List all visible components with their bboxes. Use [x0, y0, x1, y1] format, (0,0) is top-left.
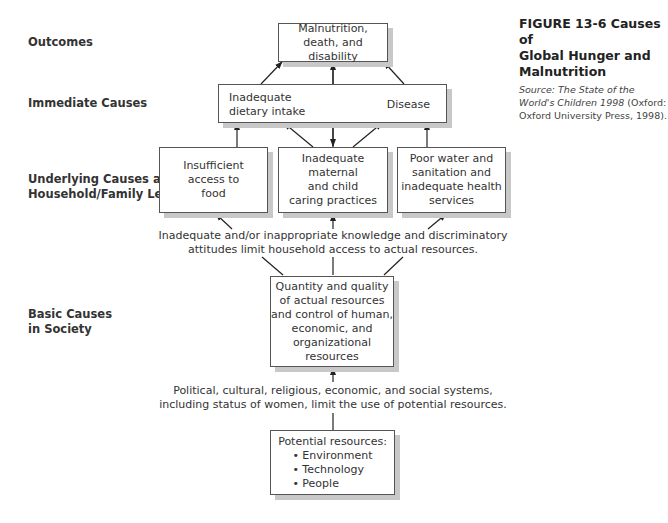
level-label-immediate: Immediate Causes	[28, 96, 147, 111]
water-sanitation-box: Poor water and sanitation and inadequate…	[397, 147, 506, 213]
basic-line3: and control of human,	[271, 308, 393, 322]
potential-item-technology: • Technology	[292, 463, 372, 477]
food-access-line1: Insufficient	[183, 159, 244, 173]
figure-source: Source: The State of the World's Childre…	[519, 83, 668, 122]
potential-resources-box: Potential resources: • Environment • Tec…	[270, 430, 395, 495]
dietary-intake-line2: dietary intake	[229, 105, 305, 119]
figure-caption: FIGURE 13-6 Causes of Global Hunger and …	[519, 16, 668, 122]
systems-line2: including status of women, limit the use…	[140, 398, 526, 412]
figure-source-italic: Source: The State of the World's Childre…	[519, 84, 635, 108]
food-access-line2: access to	[188, 173, 240, 187]
basic-line1: Quantity and quality	[276, 280, 389, 294]
basic-line6: resources	[305, 350, 358, 364]
caring-line3: caring practices	[289, 194, 377, 208]
dietary-intake-label: Inadequate dietary intake	[229, 91, 305, 119]
knowledge-caption: Inadequate and/or inappropriate knowledg…	[150, 229, 516, 257]
level-label-basic-line1: Basic Causes	[28, 307, 112, 322]
basic-causes-box: Quantity and quality of actual resources…	[270, 276, 394, 367]
figure-title: FIGURE 13-6 Causes of Global Hunger and …	[519, 16, 668, 80]
caring-line1: Inadequate maternal	[279, 152, 387, 180]
level-label-basic-line2: in Society	[28, 322, 112, 337]
systems-line1: Political, cultural, religious, economic…	[140, 384, 526, 398]
water-line1: Poor water and	[410, 152, 493, 166]
water-line4: services	[429, 194, 474, 208]
food-access-line3: food	[201, 187, 225, 201]
disease-label: Disease	[387, 98, 430, 112]
figure-title-line2: Global Hunger and	[519, 48, 668, 64]
basic-line2: of actual resources	[280, 294, 385, 308]
potential-list: • Environment • Technology • People	[292, 449, 372, 491]
water-line2: sanitation and	[412, 166, 491, 180]
caring-line2: and child	[308, 180, 358, 194]
dietary-intake-line1: Inadequate	[229, 91, 305, 105]
outcome-line2: death, and disability	[279, 36, 387, 64]
figure-title-line3: Malnutrition	[519, 64, 668, 80]
food-access-box: Insufficient access to food	[159, 147, 268, 213]
basic-line5: organizational	[293, 336, 371, 350]
knowledge-line2: attitudes limit household access to actu…	[150, 243, 516, 257]
water-line3: inadequate health	[401, 180, 502, 194]
knowledge-line1: Inadequate and/or inappropriate knowledg…	[150, 229, 516, 243]
level-label-outcomes: Outcomes	[28, 35, 93, 50]
potential-item-environment: • Environment	[292, 449, 372, 463]
outcome-box: Malnutrition, death, and disability	[278, 23, 388, 62]
immediate-causes-box: Inadequate dietary intake Disease	[218, 84, 447, 123]
potential-title: Potential resources:	[278, 435, 387, 449]
outcome-line1: Malnutrition,	[298, 22, 368, 36]
basic-line4: economic, and	[292, 322, 373, 336]
systems-caption: Political, cultural, religious, economic…	[140, 384, 526, 412]
potential-item-people: • People	[292, 477, 372, 491]
figure-title-line1: FIGURE 13-6 Causes of	[519, 16, 668, 48]
level-label-basic: Basic Causes in Society	[28, 307, 112, 337]
caring-practices-box: Inadequate maternal and child caring pra…	[278, 147, 388, 213]
